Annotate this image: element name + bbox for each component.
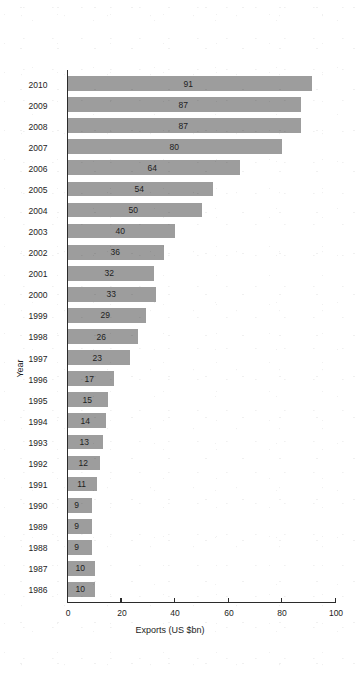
y-tick-label-2010: 2010 [16,80,60,89]
plot-area: 1010999111213141517232629333236405054648… [68,73,336,600]
bar-value-label: 50 [129,206,138,215]
x-tick-label-20: 20 [109,609,135,618]
bar-row: 40 [68,224,336,239]
y-tick-label-1987: 1987 [16,565,60,574]
bar-value-label: 29 [101,311,110,320]
bar-value-label: 36 [110,248,119,257]
bar-row: 13 [68,435,336,450]
bar-row: 29 [68,308,336,323]
y-tick-label-1990: 1990 [16,502,60,511]
bar-value-label: 15 [82,396,91,405]
x-tick-label-80: 80 [269,609,295,618]
bar-value-label: 64 [148,164,157,173]
bar-row: 91 [68,76,336,91]
x-tick-label-100: 100 [323,609,349,618]
y-tick-label-1999: 1999 [16,312,60,321]
bar-row: 54 [68,182,336,197]
bar-row: 87 [68,97,336,112]
bar-value-label: 13 [79,438,88,447]
bar-row: 9 [68,498,336,513]
bar-row: 9 [68,519,336,534]
bar-value-label: 87 [179,100,188,109]
bar-1989[interactable] [68,519,92,534]
y-tick-label-2000: 2000 [16,291,60,300]
bar-row: 50 [68,203,336,218]
bar-value-label: 10 [75,564,84,573]
y-tick-label-2004: 2004 [16,207,60,216]
bar-1990[interactable] [68,498,92,513]
bar-row: 15 [68,392,336,407]
y-tick-label-1995: 1995 [16,396,60,405]
y-tick-label-2006: 2006 [16,164,60,173]
bar-row: 32 [68,266,336,281]
y-tick-label-2001: 2001 [16,270,60,279]
bar-row: 10 [68,561,336,576]
bar-value-label: 87 [179,121,188,130]
y-tick-label-2003: 2003 [16,228,60,237]
chart-figure: Exports (US $bn) Year 020406080100 19861… [0,0,358,673]
bar-value-label: 17 [85,374,94,383]
bar-row: 87 [68,118,336,133]
bar-row: 64 [68,161,336,176]
y-tick-label-2002: 2002 [16,249,60,258]
bar-row: 14 [68,413,336,428]
bar-row: 26 [68,329,336,344]
bar-value-label: 80 [169,143,178,152]
y-tick-label-2008: 2008 [16,122,60,131]
bar-value-label: 54 [134,185,143,194]
bar-row: 12 [68,456,336,471]
y-tick-label-1989: 1989 [16,523,60,532]
y-tick-label-1992: 1992 [16,459,60,468]
bar-value-label: 9 [74,522,79,531]
y-tick-label-1994: 1994 [16,417,60,426]
bar-row: 17 [68,371,336,386]
y-tick-label-1988: 1988 [16,544,60,553]
x-axis-title: Exports (US $bn) [60,626,280,635]
y-tick-label-2009: 2009 [16,101,60,110]
x-tick-label-0: 0 [55,609,81,618]
y-tick-label-2005: 2005 [16,185,60,194]
bar-value-label: 23 [93,353,102,362]
bar-value-label: 91 [184,79,193,88]
bar-value-label: 33 [106,290,115,299]
bar-value-label: 14 [81,417,90,426]
bar-row: 33 [68,287,336,302]
bar-value-label: 40 [116,227,125,236]
x-tick-label-40: 40 [162,609,188,618]
y-tick-label-1991: 1991 [16,481,60,490]
bar-value-label: 10 [75,585,84,594]
bar-row: 23 [68,350,336,365]
y-tick-label-1998: 1998 [16,333,60,342]
bar-value-label: 9 [74,543,79,552]
bar-row: 80 [68,139,336,154]
x-axis-line [68,602,336,603]
bar-value-label: 26 [97,332,106,341]
bar-1988[interactable] [68,540,92,555]
bar-row: 10 [68,582,336,597]
y-tick-label-1997: 1997 [16,354,60,363]
bar-row: 36 [68,245,336,260]
y-tick-label-1993: 1993 [16,438,60,447]
x-tick-label-60: 60 [216,609,242,618]
bar-value-label: 9 [74,501,79,510]
bar-row: 9 [68,540,336,555]
y-tick-label-2007: 2007 [16,143,60,152]
bar-row: 11 [68,477,336,492]
bar-value-label: 32 [105,269,114,278]
bar-value-label: 12 [78,459,87,468]
chart-canvas: Exports (US $bn) Year 020406080100 19861… [0,0,358,673]
y-tick-label-1986: 1986 [16,586,60,595]
bar-value-label: 11 [77,480,86,489]
y-tick-label-1996: 1996 [16,375,60,384]
